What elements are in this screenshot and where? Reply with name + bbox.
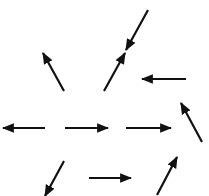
arrow-9-icon	[45, 161, 64, 196]
arrow-1-icon	[43, 53, 64, 91]
arrow-11-icon	[157, 157, 177, 195]
arrows-group	[3, 10, 202, 196]
arrow-diagram	[0, 0, 209, 196]
arrow-2-icon	[126, 10, 148, 50]
arrow-field	[0, 0, 209, 196]
arrow-8-icon	[181, 103, 202, 142]
arrow-3-icon	[104, 53, 125, 91]
